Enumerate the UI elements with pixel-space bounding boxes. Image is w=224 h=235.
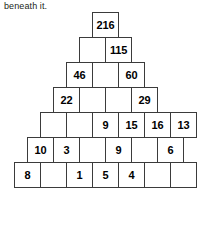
pyramid-cell-value[interactable]: 8 (14, 162, 41, 188)
pyramid-cell-value[interactable]: 5 (92, 162, 119, 188)
pyramid-cell-empty[interactable] (131, 137, 158, 163)
pyramid-cell-value[interactable]: 13 (170, 112, 197, 138)
pyramid-cell-value[interactable]: 4 (118, 162, 145, 188)
pyramid-cell-empty[interactable] (79, 137, 106, 163)
pyramid-row: 10396 (27, 137, 224, 163)
pyramid-row: 4660 (66, 62, 224, 88)
pyramid-cell-empty[interactable] (170, 162, 197, 188)
number-pyramid: 216115466022299151613103968154 (0, 12, 224, 187)
pyramid-cell-empty[interactable] (105, 87, 132, 113)
pyramid-cell-empty[interactable] (40, 162, 67, 188)
pyramid-cell-empty[interactable] (79, 37, 106, 63)
pyramid-row: 9151613 (40, 112, 224, 138)
pyramid-cell-empty[interactable] (92, 62, 119, 88)
pyramid-cell-value[interactable]: 9 (105, 137, 132, 163)
pyramid-row: 115 (79, 37, 224, 63)
pyramid-cell-value[interactable]: 9 (92, 112, 119, 138)
pyramid-cell-value[interactable]: 115 (105, 37, 132, 63)
pyramid-row: 8154 (14, 162, 224, 188)
pyramid-cell-value[interactable]: 16 (144, 112, 171, 138)
pyramid-cell-value[interactable]: 216 (92, 12, 119, 38)
pyramid-row: 2229 (53, 87, 224, 113)
pyramid-cell-value[interactable]: 15 (118, 112, 145, 138)
pyramid-cell-value[interactable]: 6 (157, 137, 184, 163)
pyramid-cell-value[interactable]: 29 (131, 87, 158, 113)
pyramid-cell-value[interactable]: 22 (53, 87, 80, 113)
pyramid-cell-value[interactable]: 60 (118, 62, 145, 88)
pyramid-cell-empty[interactable] (79, 87, 106, 113)
pyramid-row: 216 (92, 12, 224, 38)
pyramid-cell-value[interactable]: 46 (66, 62, 93, 88)
pyramid-cell-empty[interactable] (66, 112, 93, 138)
pyramid-cell-value[interactable]: 10 (27, 137, 54, 163)
instruction-text: beneath it. (4, 0, 47, 12)
pyramid-cell-empty[interactable] (144, 162, 171, 188)
pyramid-cell-value[interactable]: 1 (66, 162, 93, 188)
pyramid-cell-empty[interactable] (40, 112, 67, 138)
pyramid-cell-value[interactable]: 3 (53, 137, 80, 163)
